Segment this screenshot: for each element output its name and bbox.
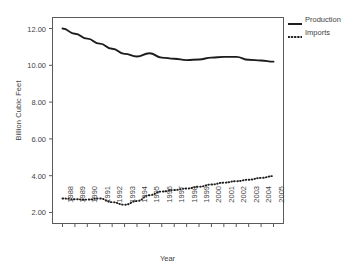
x-axis-tick-label: 1993 xyxy=(128,186,137,226)
x-axis-tick-label: 1994 xyxy=(140,186,149,226)
legend-item-imports: Imports xyxy=(288,27,348,38)
x-axis-tick-label: 1992 xyxy=(115,186,124,226)
x-axis-tick-label: 2004 xyxy=(264,186,273,226)
legend-item-production: Production xyxy=(288,14,348,25)
x-axis-tick-label: 1991 xyxy=(103,186,112,226)
legend-label: Imports xyxy=(305,28,330,37)
legend-label: Production xyxy=(305,15,341,24)
x-axis-tick-label: 1999 xyxy=(202,186,211,226)
x-axis-tick-label: 2002 xyxy=(239,186,248,226)
x-axis-tick-label: 1989 xyxy=(78,186,87,226)
x-axis-tick-label: 1998 xyxy=(190,186,199,226)
x-axis-tick-label: 2005 xyxy=(277,186,286,226)
x-axis-title: Year xyxy=(52,254,283,263)
chart-legend: ProductionImports xyxy=(288,14,348,40)
x-axis-tick-label: 1988 xyxy=(66,186,75,226)
chart-figure: 2.004.006.008.0010.0012.00 Billion Cubic… xyxy=(0,0,348,277)
x-axis-tick-labels: 1988198919901991199219931994199519961997… xyxy=(0,0,348,277)
x-axis-tick-label: 1997 xyxy=(177,186,186,226)
x-axis-tick-label: 2003 xyxy=(252,186,261,226)
solid-line-swatch xyxy=(288,15,302,25)
x-axis-tick-label: 2001 xyxy=(227,186,236,226)
x-axis-tick-label: 1996 xyxy=(165,186,174,226)
x-axis-tick-label: 2000 xyxy=(214,186,223,226)
x-axis-tick-label: 1990 xyxy=(90,186,99,226)
x-axis-tick-label: 1995 xyxy=(152,186,161,226)
dotted-line-swatch xyxy=(288,28,302,38)
